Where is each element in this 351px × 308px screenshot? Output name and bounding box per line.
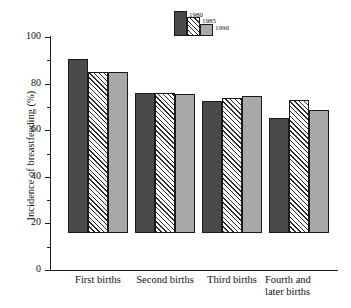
bar-1990-fourth-and-later-births	[309, 110, 329, 234]
bar-1990-third-births	[242, 96, 262, 234]
bar-1990-second-births	[175, 94, 195, 233]
bar-1985-fourth-and-later-births	[289, 100, 309, 233]
bar-chart: 1980 1985 1990 Incidence of breastfeedin…	[0, 0, 351, 308]
bar-group-fourth-and-later-births	[269, 0, 329, 233]
bar-1980-fourth-and-later-births	[269, 118, 289, 233]
bar-1980-first-births	[68, 59, 88, 233]
bar-1985-first-births	[88, 72, 108, 233]
bars-layer	[0, 0, 351, 271]
bar-1985-third-births	[222, 98, 242, 233]
bar-group-third-births	[202, 0, 262, 233]
bar-1985-second-births	[155, 93, 175, 234]
bar-group-second-births	[135, 0, 195, 233]
x-category-line: Fourth and	[265, 274, 345, 286]
bar-1980-third-births	[202, 101, 222, 233]
x-category-label-fourth-and-later-births: Fourth and later births	[259, 274, 345, 297]
bar-1980-second-births	[135, 93, 155, 234]
x-category-line: later births	[265, 286, 345, 298]
bar-1990-first-births	[108, 72, 128, 233]
bar-group-first-births	[68, 0, 128, 233]
